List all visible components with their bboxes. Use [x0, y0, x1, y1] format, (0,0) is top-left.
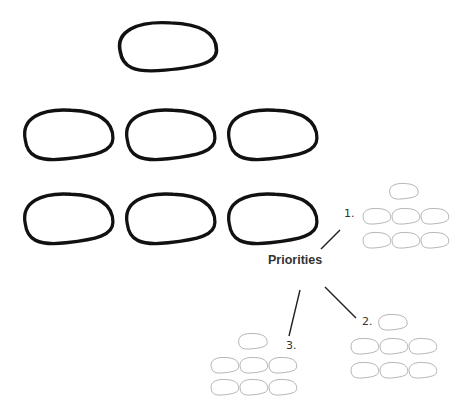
large-oval-row2-2	[127, 194, 215, 244]
large-oval-row1-1	[25, 110, 113, 160]
large-oval-row2-3	[229, 194, 317, 244]
large-oval-row2-1	[25, 194, 113, 244]
branch-number-1: 1.	[344, 207, 355, 220]
priorities-label: Priorities	[268, 253, 322, 267]
large-oval-row1-2	[127, 110, 215, 160]
large-oval-top	[120, 23, 217, 71]
group-1-ovals	[363, 183, 449, 248]
connector-line-3	[289, 290, 300, 336]
diagram-canvas	[0, 0, 470, 415]
connector-line-1	[321, 230, 340, 249]
group-3-ovals	[211, 333, 297, 395]
branch-number-2: 2.	[362, 315, 373, 328]
branch-number-3: 3.	[286, 339, 297, 352]
large-oval-row1-3	[229, 110, 317, 160]
connector-line-2	[325, 287, 356, 318]
